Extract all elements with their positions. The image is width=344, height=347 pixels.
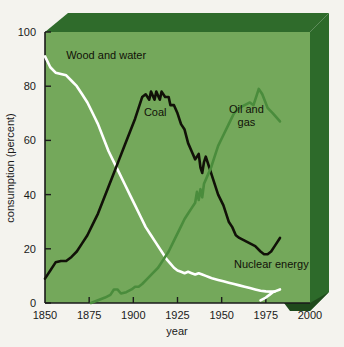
y-axis-title: consumption (percent) [4, 113, 16, 222]
y-tick-label: 100 [18, 26, 36, 38]
series-label-oil-and-gas-line2: gas [238, 116, 256, 128]
series-label-wood-and-water: Wood and water [66, 49, 146, 61]
x-tick-label: 1925 [165, 309, 189, 321]
panel-top-face [45, 13, 329, 32]
x-tick-label: 2000 [298, 309, 322, 321]
y-tick-label: 60 [24, 134, 36, 146]
y-tick-label: 40 [24, 189, 36, 201]
series-label-nuclear-energy: Nuclear energy [234, 258, 309, 270]
x-tick-label: 1950 [209, 309, 233, 321]
x-axis-title: year [166, 325, 188, 337]
series-label-oil-and-gas: Oil and [229, 103, 264, 115]
panel-side-face [310, 13, 329, 311]
x-tick-label: 1900 [121, 309, 145, 321]
x-tick-label: 1875 [77, 309, 101, 321]
series-label-coal: Coal [144, 106, 167, 118]
y-tick-label: 0 [30, 297, 36, 309]
y-tick-label: 80 [24, 80, 36, 92]
x-tick-label: 1975 [254, 309, 278, 321]
chart-figure: 020406080100 185018751900192519501975200… [0, 0, 344, 347]
y-tick-label: 20 [24, 243, 36, 255]
x-tick-label: 1850 [33, 309, 57, 321]
energy-consumption-chart: 020406080100 185018751900192519501975200… [0, 0, 344, 347]
